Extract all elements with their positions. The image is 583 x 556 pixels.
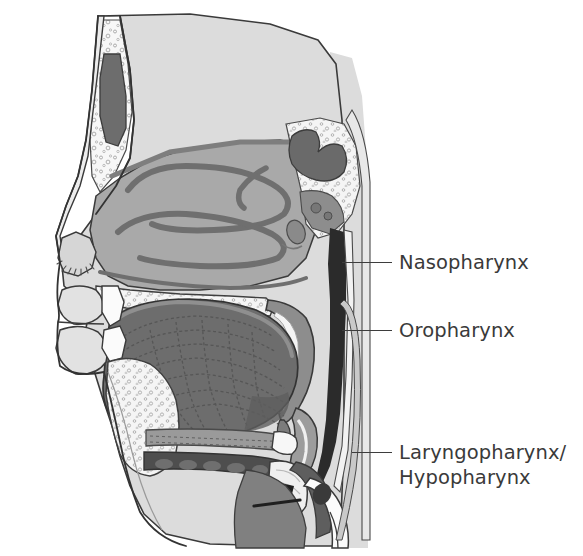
nasal-cavity [90,140,320,290]
nasal-vestibule [57,232,96,276]
label-laryngopharynx-line1: Laryngopharynx/ [399,440,566,465]
leader-line-nasopharynx [342,262,392,263]
leader-line-laryngopharynx [352,452,392,453]
label-nasopharynx: Nasopharynx [399,250,529,275]
label-laryngopharynx-line2: Hypopharynx [399,465,531,490]
leader-line-oropharynx [342,330,392,331]
pharynx-anatomy-figure: Nasopharynx Oropharynx Laryngopharynx/ H… [0,0,583,556]
label-oropharynx: Oropharynx [399,318,515,343]
